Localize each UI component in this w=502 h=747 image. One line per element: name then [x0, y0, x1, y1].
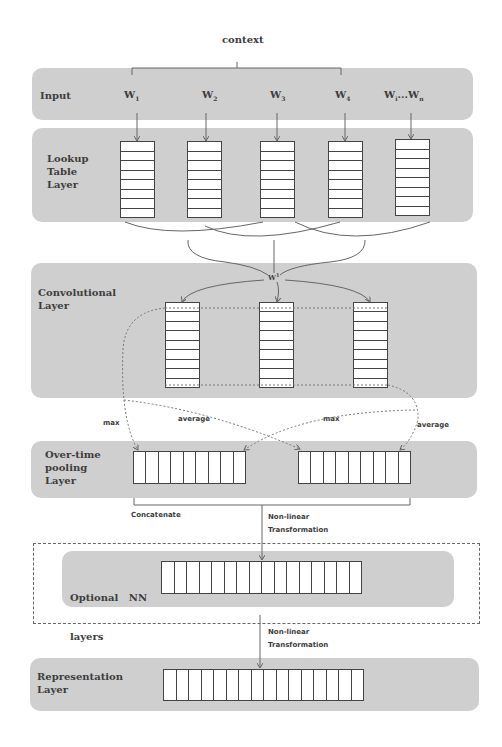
conv-vector-3 — [353, 302, 388, 388]
nonlinear-transformation-2: Non-linear Transformation — [268, 626, 328, 652]
optional-layer-label: Optional NN layers — [70, 565, 147, 656]
lookup-label-line: Lookup — [47, 152, 89, 165]
pooling-vector-max-average-1 — [133, 451, 246, 484]
lookup-vector-2 — [187, 141, 222, 218]
lookup-vector-5 — [395, 139, 430, 216]
nonlinear-line: Non-linear — [268, 511, 328, 524]
weight-sup: 1 — [276, 272, 279, 278]
word-w2: W2 — [202, 89, 217, 102]
concatenate-label: Concatenate — [131, 509, 181, 522]
word-w4-sub: 4 — [346, 95, 350, 102]
nonlinear-line: Transformation — [268, 639, 328, 652]
optional-label-line: Optional NN — [70, 591, 147, 604]
lookup-vector-4 — [328, 141, 363, 218]
nonlinear-line: Non-linear — [268, 626, 328, 639]
optional-nn-vector — [161, 561, 362, 594]
pooling-label-line: pooling — [45, 461, 101, 474]
lookup-vector-3 — [260, 141, 295, 218]
word-w4: W4 — [335, 89, 350, 102]
edge-label-max-2: max — [323, 413, 340, 426]
conv-layer-label: Convolutional Layer — [38, 286, 116, 312]
representation-vector — [163, 669, 364, 701]
context-label: context — [222, 34, 264, 45]
representation-label-line: Representation — [37, 670, 123, 683]
lookup-label-line: Layer — [47, 178, 89, 191]
representation-layer-label: Representation Layer — [37, 670, 123, 696]
representation-label-line: Layer — [37, 683, 123, 696]
conv-vector-1 — [165, 302, 200, 388]
lookup-label-line: Table — [47, 165, 89, 178]
conv-weight-label: W1 — [268, 272, 279, 282]
optional-label-line: layers — [70, 630, 147, 643]
nonlinear-transformation-1: Non-linear Transformation — [268, 511, 328, 537]
input-layer-label: Input — [40, 89, 71, 102]
weight-w: W — [268, 273, 276, 282]
lookup-layer-label: Lookup Table Layer — [47, 152, 89, 191]
conv-label-line: Convolutional — [38, 286, 116, 299]
word-w2-sub: 2 — [213, 95, 217, 102]
lookup-vector-1 — [120, 141, 155, 218]
edge-label-average-2: average — [417, 419, 449, 432]
word-w1: W1 — [124, 89, 139, 102]
pooling-layer-label: Over-time pooling Layer — [45, 448, 101, 487]
conv-label-line: Layer — [38, 299, 116, 312]
pooling-vector-max-average-2 — [298, 451, 411, 484]
word-w1-sub: 1 — [135, 95, 139, 102]
conv-vector-2 — [259, 302, 294, 388]
nonlinear-line: Transformation — [268, 524, 328, 537]
word-w3-sub: 3 — [281, 95, 285, 102]
pooling-label-line: Layer — [45, 474, 101, 487]
edge-label-average-1: average — [178, 413, 210, 426]
word-w3: W3 — [270, 89, 285, 102]
edge-label-max-1: max — [103, 417, 120, 430]
convolutional-layer — [31, 263, 477, 398]
pooling-label-line: Over-time — [45, 448, 101, 461]
word-wi-wn: Wi...Wn — [384, 89, 424, 102]
